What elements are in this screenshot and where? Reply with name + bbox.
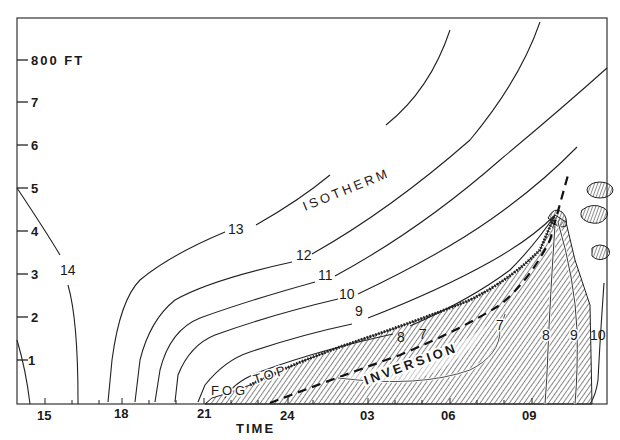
isotherm-left-edge: [17, 340, 30, 404]
patch-1: [587, 182, 613, 198]
x-tick-18: 18: [114, 406, 128, 421]
patch-2: [581, 205, 608, 223]
label-9-right: 9: [570, 327, 578, 343]
patch-3: [592, 245, 610, 260]
label-7-inner: 7: [496, 317, 504, 333]
x-tick-06: 06: [441, 408, 455, 423]
label-8: 8: [397, 329, 405, 345]
label-12: 12: [296, 247, 312, 263]
x-tick-24: 24: [280, 408, 295, 423]
x-tick-03: 03: [360, 408, 374, 423]
y-tick-2: 2: [31, 310, 38, 325]
y-tick-1: 1: [28, 353, 35, 368]
label-9: 9: [355, 303, 363, 319]
label-11: 11: [318, 267, 333, 283]
diagram-canvas: 800 FT 7 6 5 4 3 2 1 15 18 21 24 03 0: [0, 0, 620, 440]
y-tick-6: 6: [31, 138, 38, 153]
isotherm-14: [17, 188, 78, 404]
label-8-right: 8: [542, 327, 550, 343]
label-13: 13: [228, 221, 244, 237]
label-7-upper: 7: [419, 326, 427, 342]
y-axis-ticks: [17, 60, 28, 360]
y-axis-labels: 800 FT 7 6 5 4 3 2 1: [28, 53, 84, 368]
label-10-right: 10: [590, 327, 606, 343]
x-tick-15: 15: [37, 408, 51, 423]
label-14: 14: [60, 262, 76, 278]
y-tick-3: 3: [31, 267, 38, 282]
y-tick-7: 7: [31, 95, 38, 110]
y-tick-4: 4: [31, 224, 39, 239]
y-tick-5: 5: [31, 181, 38, 196]
x-tick-21: 21: [197, 406, 211, 421]
x-axis-title: TIME: [236, 421, 275, 436]
label-10: 10: [339, 286, 355, 302]
fog-label: FOG: [211, 383, 248, 398]
x-tick-09: 09: [522, 408, 536, 423]
isotherm-word: ISOTHERM: [301, 165, 392, 214]
isotherm-fog-diagram: 800 FT 7 6 5 4 3 2 1 15 18 21 24 03 0: [0, 0, 620, 440]
y-tick-800ft: 800 FT: [31, 53, 84, 68]
x-axis-labels: 15 18 21 24 03 06 09 TIME: [37, 406, 536, 436]
